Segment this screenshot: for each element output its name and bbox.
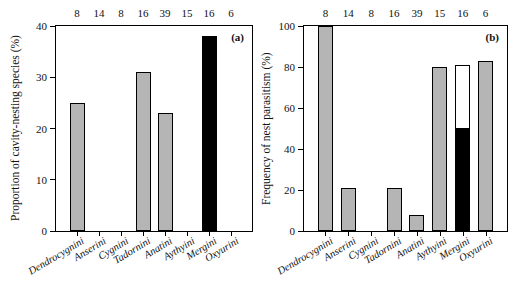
y-tick-label: 80	[284, 62, 295, 73]
sample-size: 15	[176, 7, 198, 19]
category-slot	[88, 26, 110, 231]
bar-aythyini	[432, 26, 447, 231]
bars-container-a	[56, 26, 252, 231]
y-tick-label: 20	[36, 123, 47, 134]
bar-segment	[409, 215, 424, 231]
bar-oxyurini	[478, 26, 493, 231]
y-tick-label: 0	[290, 226, 296, 237]
bar-mergini	[202, 26, 217, 231]
category-slot	[220, 26, 242, 231]
y-axis-title-a: Proportion of cavity-nesting species (%)	[10, 25, 22, 232]
category-slot	[383, 26, 406, 231]
category-slot	[406, 26, 429, 231]
sample-size-row-a: 8148163915166	[56, 7, 252, 19]
bar-segment	[478, 61, 493, 231]
plot-area-b: 8148163915166 DendrocygniniAnseriniCygni…	[303, 25, 508, 232]
sample-size: 6	[474, 7, 497, 19]
sample-size: 15	[428, 7, 451, 19]
panel-letter-b: (b)	[486, 31, 499, 43]
sample-size: 8	[360, 7, 383, 19]
sample-size: 16	[451, 7, 474, 19]
x-tick-mark	[209, 232, 210, 236]
category-slot	[176, 26, 198, 231]
plot-area-a: 8148163915166 DendrocygniniAnseriniCygni…	[55, 25, 253, 232]
bar-segment	[432, 67, 447, 231]
bar-dendrocygnini	[318, 26, 333, 231]
y-tick-mark	[298, 190, 303, 191]
y-tick-mark	[50, 26, 55, 27]
y-tick-mark	[50, 231, 55, 232]
sample-size: 8	[66, 7, 88, 19]
sample-size: 39	[406, 7, 429, 19]
y-tick-label: 20	[284, 185, 295, 196]
y-tick-mark	[50, 128, 55, 129]
category-slot	[360, 26, 383, 231]
bar-segment	[455, 65, 470, 129]
bar-segment	[387, 188, 402, 231]
bar-mergini	[455, 26, 470, 231]
category-slot	[154, 26, 176, 231]
sample-size: 16	[132, 7, 154, 19]
sample-size: 6	[220, 7, 242, 19]
y-tick-mark	[298, 108, 303, 109]
dual-bar-chart-figure: Proportion of cavity-nesting species (%)…	[0, 0, 526, 292]
bar-segment	[341, 188, 356, 231]
bar-anserini	[341, 26, 356, 231]
y-tick-mark	[298, 26, 303, 27]
bar-dendrocygnini	[70, 26, 85, 231]
sample-size: 16	[198, 7, 220, 19]
y-tick-mark	[50, 179, 55, 180]
bar-segment	[158, 113, 173, 231]
category-slot	[428, 26, 451, 231]
category-slot	[474, 26, 497, 231]
y-tick-label: 30	[36, 72, 47, 83]
y-tick-label: 60	[284, 103, 295, 114]
y-tick-mark	[298, 231, 303, 232]
bar-segment	[455, 129, 470, 232]
y-tick-mark	[50, 77, 55, 78]
bar-anatini	[158, 26, 173, 231]
bar-tadornini	[387, 26, 402, 231]
category-slot	[132, 26, 154, 231]
sample-size: 8	[110, 7, 132, 19]
category-slot	[110, 26, 132, 231]
category-slot	[337, 26, 360, 231]
y-axis-title-b: Frequency of nest parasitism (%)	[261, 25, 273, 232]
y-tick-mark	[298, 67, 303, 68]
category-slot	[198, 26, 220, 231]
bar-segment	[136, 72, 151, 231]
bars-container-b	[304, 26, 507, 231]
sample-size: 14	[337, 7, 360, 19]
y-tick-mark	[298, 149, 303, 150]
sample-size: 16	[383, 7, 406, 19]
y-tick-label: 40	[36, 21, 47, 32]
y-tick-label: 10	[36, 174, 47, 185]
bar-segment	[318, 26, 333, 231]
sample-size: 39	[154, 7, 176, 19]
sample-size-row-b: 8148163915166	[304, 7, 507, 19]
bar-anatini	[409, 26, 424, 231]
panel-letter-a: (a)	[231, 31, 244, 43]
y-tick-label: 40	[284, 144, 295, 155]
bar-tadornini	[136, 26, 151, 231]
category-slot	[314, 26, 337, 231]
bar-segment	[70, 103, 85, 231]
bar-segment	[202, 36, 217, 231]
category-slot	[66, 26, 88, 231]
y-tick-label: 100	[279, 21, 296, 32]
sample-size: 8	[314, 7, 337, 19]
y-tick-label: 0	[42, 226, 48, 237]
category-slot	[451, 26, 474, 231]
sample-size: 14	[88, 7, 110, 19]
